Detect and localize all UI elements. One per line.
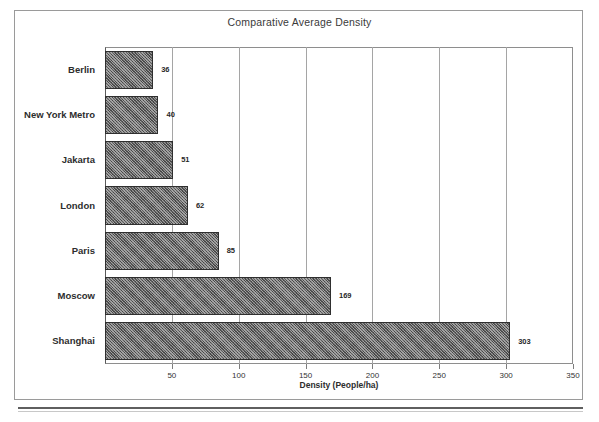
bar-row: 169	[105, 277, 573, 315]
category-label-shanghai: Shanghai	[52, 336, 95, 346]
category-axis-labels: BerlinNew York MetroJakartaLondonParisMo…	[0, 47, 100, 364]
footer-rule	[18, 407, 583, 409]
bar-berlin[interactable]	[105, 51, 153, 89]
tick-label-100: 100	[232, 372, 245, 380]
value-axis-title: Density (People/ha)	[105, 380, 573, 390]
bar-row: 303	[105, 322, 573, 360]
bar-series: 3640516285169303	[105, 47, 573, 364]
tick-label-50: 50	[167, 372, 176, 380]
bar-row: 85	[105, 232, 573, 270]
category-label-moscow: Moscow	[58, 291, 95, 301]
tick-100	[239, 364, 240, 369]
bar-value-label: 85	[227, 247, 235, 255]
bar-row: 40	[105, 96, 573, 134]
category-label-new-york-metro: New York Metro	[24, 110, 95, 120]
tick-350	[573, 364, 574, 369]
bar-row: 36	[105, 51, 573, 89]
category-label-jakarta: Jakarta	[62, 155, 95, 165]
tick-250	[439, 364, 440, 369]
bar-row: 62	[105, 186, 573, 224]
bar-london[interactable]	[105, 186, 188, 224]
tick-label-350: 350	[566, 372, 579, 380]
tick-50	[172, 364, 173, 369]
tick-label-250: 250	[433, 372, 446, 380]
bar-paris[interactable]	[105, 232, 219, 270]
chart-title: Comparative Average Density	[0, 16, 599, 28]
plot-area: 3640516285169303	[105, 47, 573, 364]
category-label-berlin: Berlin	[68, 65, 95, 75]
bar-value-label: 169	[339, 292, 352, 300]
tick-200	[372, 364, 373, 369]
category-label-london: London	[60, 201, 95, 211]
bar-moscow[interactable]	[105, 277, 331, 315]
bar-new-york-metro[interactable]	[105, 96, 158, 134]
bar-value-label: 36	[161, 66, 169, 74]
bar-value-label: 303	[518, 338, 531, 346]
tick-label-300: 300	[499, 372, 512, 380]
bar-row: 51	[105, 141, 573, 179]
tick-label-200: 200	[366, 372, 379, 380]
tick-label-150: 150	[299, 372, 312, 380]
tick-150	[306, 364, 307, 369]
category-label-paris: Paris	[72, 246, 95, 256]
bar-value-label: 51	[181, 156, 189, 164]
footer-rule-secondary	[18, 411, 583, 412]
bar-value-label: 40	[166, 111, 174, 119]
bar-shanghai[interactable]	[105, 322, 510, 360]
tick-300	[506, 364, 507, 369]
bar-value-label: 62	[196, 202, 204, 210]
bar-jakarta[interactable]	[105, 141, 173, 179]
